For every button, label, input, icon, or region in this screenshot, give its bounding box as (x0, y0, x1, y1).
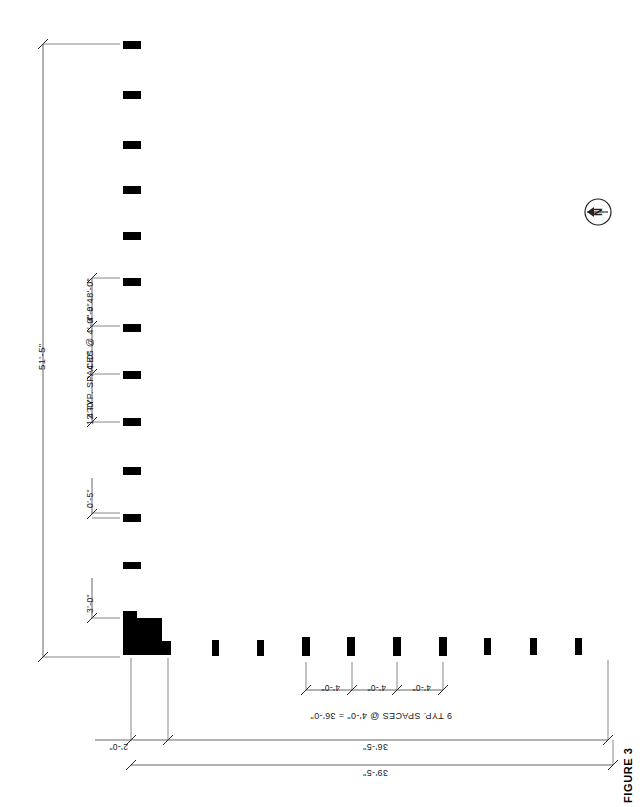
dim-label-left-seg-1: 4'-0" (86, 303, 95, 322)
dim-label-bottom-chain-note: 9 TYP. SPACES @ 4'-0" = 36'-0" (310, 711, 452, 720)
svg-text:N: N (592, 208, 604, 216)
dim-label-left-overall: 51'-5" (37, 343, 47, 370)
figure-caption: FIGURE 3 (622, 747, 634, 803)
dim-label-bottom-seg-1: 4'-0" (321, 684, 340, 693)
dim-label-bottom-overall: 39'-5" (363, 768, 388, 777)
dim-label-left-seg-2: 4'-0" (86, 351, 95, 370)
dim-label-bottom-mid: 36'-5" (363, 742, 388, 751)
row-pile-bars (212, 637, 582, 656)
dim-left-overall (38, 39, 120, 662)
column-pile-bars (123, 41, 141, 569)
drawing-sheet: .thin { stroke:#3f3f3f; stroke-width:0.8… (0, 0, 640, 807)
dim-bottom-mid (95, 658, 613, 745)
dim-label-bottom-seg-2: 4'-0" (367, 684, 386, 693)
dim-label-left-seg-3: 4'-0" (86, 399, 95, 418)
north-arrow-icon: N (585, 199, 611, 225)
corner-mass-block (123, 611, 171, 655)
dim-label-bottom-offset: 2'-0" (109, 743, 128, 752)
dim-label-left-small-a: 0'-5" (86, 489, 95, 508)
dim-label-bottom-seg-3: 4'-0" (412, 684, 431, 693)
dim-label-left-small-b: 3'-0" (86, 594, 95, 613)
plan-vector-layer: .thin { stroke:#3f3f3f; stroke-width:0.8… (0, 0, 640, 807)
